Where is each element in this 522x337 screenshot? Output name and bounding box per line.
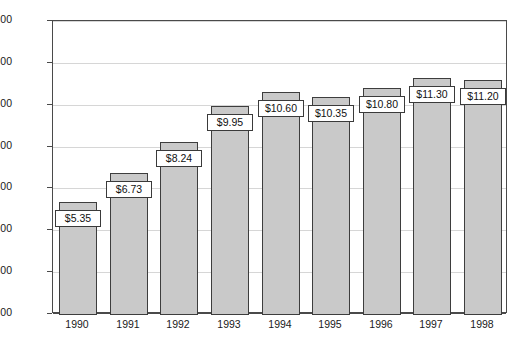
bar-value-label-1990: $5.35 [55, 210, 101, 227]
bar-1992 [160, 142, 198, 315]
y-tick-mark [47, 62, 52, 63]
x-axis-tick-label-1996: 1996 [356, 318, 406, 330]
x-axis-tick-label-1993: 1993 [204, 318, 254, 330]
y-tick-mark [47, 229, 52, 230]
bar-value-label-1992: $8.24 [156, 150, 202, 167]
y-axis-tick-label: $12.00 [0, 55, 12, 67]
bar-chart: $5.35$6.73$8.24$9.95$10.60$10.35$10.80$1… [0, 0, 522, 337]
gridline-1400 [53, 21, 506, 22]
bar-1994 [262, 92, 300, 315]
chart-title-cropped [0, 0, 522, 9]
gridline-1200 [53, 63, 506, 64]
bar-1996 [363, 88, 401, 315]
y-axis-tick-label: $2.00 [0, 264, 12, 276]
y-tick-mark [47, 271, 52, 272]
x-axis-tick-label-1997: 1997 [406, 318, 456, 330]
bar-value-label-1998: $11.20 [460, 88, 506, 105]
plot-inner: $5.35$6.73$8.24$9.95$10.60$10.35$10.80$1… [53, 21, 506, 312]
y-tick-mark [47, 313, 52, 314]
plot-area: $5.35$6.73$8.24$9.95$10.60$10.35$10.80$1… [52, 20, 507, 313]
bar-1995 [312, 97, 350, 315]
x-axis-tick-label-1995: 1995 [305, 318, 355, 330]
y-axis-tick-label: $10.00 [0, 97, 12, 109]
bar-value-label-1996: $10.80 [359, 96, 405, 113]
y-axis-tick-label: $0.00 [0, 306, 12, 318]
x-axis-tick-label-1992: 1992 [153, 318, 203, 330]
bar-1993 [211, 106, 249, 315]
bar-value-label-1991: $6.73 [106, 181, 152, 198]
y-axis-tick-label: $4.00 [0, 222, 12, 234]
x-axis-tick-label-1998: 1998 [457, 318, 507, 330]
y-tick-mark [47, 187, 52, 188]
y-tick-mark [47, 104, 52, 105]
bar-1997 [413, 78, 451, 315]
bar-value-label-1995: $10.35 [308, 105, 354, 122]
y-tick-mark [47, 20, 52, 21]
bar-1998 [464, 80, 502, 315]
y-axis-tick-label: $8.00 [0, 139, 12, 151]
bar-value-label-1994: $10.60 [258, 100, 304, 117]
y-axis-tick-label: $6.00 [0, 180, 12, 192]
x-axis-tick-label-1994: 1994 [255, 318, 305, 330]
y-axis-tick-label: $14.00 [0, 13, 12, 25]
x-axis-tick-label-1990: 1990 [52, 318, 102, 330]
x-axis-tick-label-1991: 1991 [103, 318, 153, 330]
y-tick-mark [47, 146, 52, 147]
bar-value-label-1993: $9.95 [207, 114, 253, 131]
bar-value-label-1997: $11.30 [409, 86, 455, 103]
